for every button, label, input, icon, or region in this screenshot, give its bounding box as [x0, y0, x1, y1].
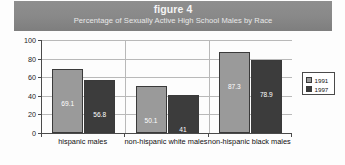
group-separator [125, 40, 126, 133]
bar-1991-0: 69.1 [52, 69, 83, 133]
plot-area: 020406080100 69.156.850.14187.378.9 [41, 40, 292, 134]
group-separator [209, 40, 210, 133]
y-axis-tick [38, 40, 42, 41]
y-axis-tick-label: 80 [28, 54, 36, 63]
bar-1997-1: 41 [168, 95, 199, 133]
bar-value-label: 50.1 [137, 117, 166, 124]
category-label-2: non-hispanic black males [208, 137, 291, 147]
bar-1991-1: 50.1 [136, 86, 167, 133]
bar-value-label: 78.9 [252, 91, 281, 98]
bar-1997-0: 56.8 [84, 80, 115, 133]
bar-1997-2: 78.9 [251, 60, 282, 133]
legend-item: 1997 [306, 85, 334, 93]
gridline [42, 40, 292, 41]
legend-item: 1991 [306, 76, 334, 84]
legend-swatch-1997 [306, 86, 312, 92]
bar-value-label: 56.8 [85, 111, 114, 118]
x-axis-tick [291, 133, 292, 137]
legend-label-1997: 1997 [315, 86, 329, 93]
y-axis-tick-label: 0 [32, 129, 36, 138]
y-axis-tick [38, 96, 42, 97]
legend-label-1991: 1991 [315, 77, 329, 84]
chart-legend: 1991 1997 [302, 72, 335, 95]
y-axis-tick [38, 114, 42, 115]
chart-subtitle-label: Percentage of Sexually Active High Schoo… [14, 16, 332, 25]
y-axis-tick-label: 40 [28, 91, 36, 100]
y-axis-tick-label: 60 [28, 73, 36, 82]
y-axis-tick-label: 20 [28, 110, 36, 119]
figure-number-label: figure 4 [14, 3, 332, 15]
legend-swatch-1991 [306, 77, 312, 83]
bar-value-label: 87.3 [220, 83, 249, 90]
bar-1991-2: 87.3 [219, 52, 250, 133]
y-axis-tick [38, 77, 42, 78]
bar-value-label: 41 [169, 126, 198, 133]
y-axis-tick-label: 100 [24, 36, 36, 45]
y-axis-tick [38, 59, 42, 60]
chart-title-banner: figure 4 Percentage of Sexually Active H… [14, 1, 332, 31]
category-label-0: hispanic males [41, 137, 124, 147]
bar-value-label: 69.1 [53, 100, 82, 107]
chart-area: 020406080100 69.156.850.14187.378.9 hisp… [0, 31, 345, 165]
category-label-1: non-hispanic white males [124, 137, 207, 147]
